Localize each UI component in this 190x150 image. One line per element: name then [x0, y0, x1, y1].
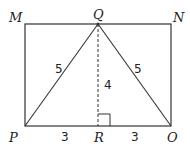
geometry-diagram: M Q N P R O 5 5 4 3 3 [0, 0, 190, 150]
right-angle-marker [98, 114, 110, 126]
length-label-pq: 5 [55, 62, 63, 76]
length-label-qr: 4 [104, 78, 112, 92]
vertex-label-p: P [8, 130, 18, 145]
vertex-label-n: N [172, 10, 185, 25]
point-q [97, 23, 100, 26]
vertex-label-q: Q [93, 7, 104, 22]
vertex-label-m: M [8, 10, 23, 25]
length-label-ro: 3 [131, 130, 139, 144]
length-label-pr: 3 [61, 130, 69, 144]
vertex-label-o: O [167, 130, 178, 145]
vertex-label-r: R [93, 130, 104, 145]
length-label-qo: 5 [134, 62, 142, 76]
